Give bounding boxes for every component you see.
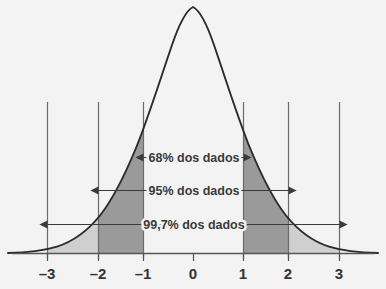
chart-canvas: 68% dos dados 68% dos dados 95% dos dado… xyxy=(0,0,386,289)
annotation-span-68: 68% dos dados 68% dos dados xyxy=(144,151,244,165)
tick-label-plus1: 1 xyxy=(239,265,247,282)
tick-label-minus2: –2 xyxy=(90,265,107,282)
tick-label-plus3: 3 xyxy=(335,265,343,282)
span-997-label: 99,7% dos dados xyxy=(143,218,244,232)
normal-distribution-figure: 68% dos dados 68% dos dados 95% dos dado… xyxy=(0,0,386,289)
span-68-label: 68% dos dados xyxy=(149,151,240,165)
tick-label-zero: 0 xyxy=(189,265,197,282)
tick-label-plus2: 2 xyxy=(284,265,292,282)
tick-label-minus1: –1 xyxy=(135,265,152,282)
tick-label-minus3: –3 xyxy=(39,265,56,282)
span-95-label: 95% dos dados xyxy=(149,184,240,198)
